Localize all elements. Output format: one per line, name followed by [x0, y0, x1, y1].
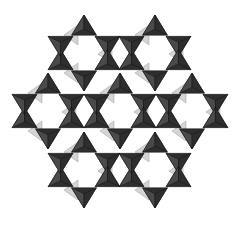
tetrahedron	[95, 167, 120, 187]
tetrahedron	[203, 108, 228, 128]
ring-7	[119, 132, 191, 208]
tetrahedron	[59, 108, 84, 128]
tetrahedron	[131, 108, 156, 128]
tetrahedron	[156, 94, 181, 114]
ring-1	[48, 15, 120, 91]
tetrahedron	[119, 36, 144, 56]
ring-5	[156, 73, 228, 149]
tetrahedron	[143, 15, 168, 35]
tetrahedron	[143, 132, 168, 152]
tetrahedron	[36, 73, 61, 93]
tetrahedron	[72, 132, 97, 152]
ring-6	[48, 132, 120, 208]
tetrahedron	[48, 36, 73, 56]
crystal-structure-diagram	[0, 0, 239, 226]
tetrahedron	[95, 50, 120, 70]
ring-4	[84, 73, 156, 149]
tetrahedron	[72, 15, 97, 35]
tetrahedron	[166, 167, 191, 187]
tetrahedron	[180, 73, 205, 93]
tetrahedron	[48, 153, 73, 173]
ring-3	[12, 73, 84, 149]
ring-2	[119, 15, 191, 91]
tetrahedron	[166, 50, 191, 70]
tetrahedron	[108, 73, 133, 93]
tetrahedron	[84, 94, 109, 114]
polyhedra-canvas	[0, 0, 239, 226]
tetrahedron	[12, 94, 37, 114]
tetrahedron	[119, 153, 144, 173]
